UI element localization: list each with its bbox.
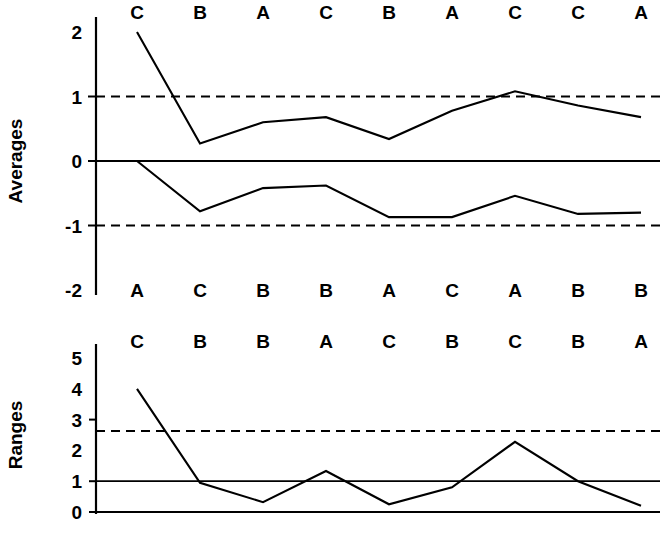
- ranges-top-label-2: B: [193, 331, 207, 352]
- ranges-ytick-label-2: 2: [71, 440, 82, 461]
- averages-top-label-6: A: [445, 2, 459, 23]
- ranges-ytick-label-3: 3: [71, 410, 82, 431]
- ranges-series-ranges: [137, 389, 641, 506]
- ranges-ytick-label-4: 4: [71, 379, 82, 400]
- control-chart-figure: 210-1-2AveragesCBACBACCAACBBACABB543210R…: [0, 0, 660, 548]
- averages-top-label-5: B: [382, 2, 396, 23]
- ranges-top-label-7: C: [508, 331, 522, 352]
- averages-bottom-label-1: A: [130, 280, 144, 301]
- averages-bottom-label-4: B: [319, 280, 333, 301]
- ranges-top-label-4: A: [319, 331, 333, 352]
- averages-top-label-7: C: [508, 2, 522, 23]
- ranges-top-label-6: B: [445, 331, 459, 352]
- averages-bottom-label-6: C: [445, 280, 459, 301]
- averages-series-upper-averages: [137, 32, 641, 144]
- averages-top-label-4: C: [319, 2, 333, 23]
- averages-top-label-2: B: [193, 2, 207, 23]
- averages-bottom-label-3: B: [256, 280, 270, 301]
- ranges-ytick-label-1: 1: [71, 471, 82, 492]
- averages-panel: 210-1-2AveragesCBACBACCAACBBACABB: [5, 2, 660, 301]
- averages-bottom-label-9: B: [634, 280, 648, 301]
- ranges-ytick-label-0: 0: [71, 502, 82, 523]
- averages-ytick-label-2: 2: [71, 22, 82, 43]
- averages-top-label-8: C: [571, 2, 585, 23]
- ranges-top-label-1: C: [130, 331, 144, 352]
- averages-top-label-1: C: [130, 2, 144, 23]
- averages-series-lower-averages: [137, 161, 641, 217]
- control-chart-svg: 210-1-2AveragesCBACBACCAACBBACABB543210R…: [0, 0, 660, 548]
- ranges-top-label-3: B: [256, 331, 270, 352]
- ranges-top-label-9: A: [634, 331, 648, 352]
- averages-ytick-label-1: 1: [71, 87, 82, 108]
- averages-axis-title: Averages: [5, 119, 26, 204]
- ranges-ytick-label-5: 5: [71, 348, 82, 369]
- averages-top-label-9: A: [634, 2, 648, 23]
- averages-top-label-3: A: [256, 2, 270, 23]
- ranges-panel: 543210RangesCBBACBCBA: [5, 331, 660, 523]
- averages-ytick-label--2: -2: [65, 280, 82, 301]
- averages-bottom-label-5: A: [382, 280, 396, 301]
- ranges-axis-title: Ranges: [5, 401, 26, 470]
- ranges-top-label-5: C: [382, 331, 396, 352]
- ranges-top-label-8: B: [571, 331, 585, 352]
- averages-bottom-label-2: C: [193, 280, 207, 301]
- averages-bottom-label-8: B: [571, 280, 585, 301]
- averages-bottom-label-7: A: [508, 280, 522, 301]
- averages-ytick-label--1: -1: [65, 216, 82, 237]
- averages-ytick-label-0: 0: [71, 151, 82, 172]
